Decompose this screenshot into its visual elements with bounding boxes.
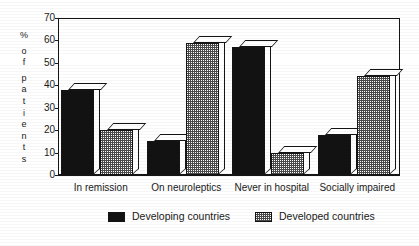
bar-top-face	[68, 83, 107, 90]
bar-side-face	[264, 41, 271, 175]
y-axis-tick-mark	[55, 175, 59, 176]
y-axis-label-char: t	[14, 142, 34, 154]
y-axis-label-char: e	[14, 119, 34, 131]
bar-front-face	[100, 130, 133, 175]
bar-top-face	[364, 69, 403, 76]
y-axis-tick-mark	[55, 130, 59, 131]
y-axis-tick-mark	[55, 18, 59, 19]
y-axis-tick-mark	[55, 108, 59, 109]
y-axis-tick-mark	[55, 63, 59, 64]
y-axis-label-char: f	[14, 57, 34, 69]
x-axis-category-label: On neuroleptics	[144, 182, 230, 194]
bar	[318, 128, 351, 175]
bar	[61, 83, 94, 175]
bar-top-face	[193, 36, 232, 43]
y-axis-tick-label: 30	[35, 103, 55, 113]
bar-side-face	[93, 83, 100, 175]
legend-item: Developing countries	[108, 210, 230, 223]
chart-legend: Developing countriesDeveloped countries	[0, 210, 419, 234]
bar	[232, 40, 265, 175]
bar	[357, 69, 390, 175]
bar-front-face	[147, 141, 180, 175]
bar	[186, 36, 219, 175]
y-axis-label-char: a	[14, 84, 34, 96]
y-axis-tick-label: 60	[35, 35, 55, 45]
y-axis-tick-label: 20	[35, 125, 55, 135]
x-axis-category-label: Socially impaired	[315, 182, 401, 194]
bar-front-face	[357, 76, 390, 175]
legend-label: Developing countries	[132, 210, 230, 223]
y-axis-tick-label: 0	[35, 170, 55, 180]
bar-side-face	[350, 128, 357, 175]
y-axis-label: %ofpatients	[14, 30, 34, 166]
y-axis-tick-label: 10	[35, 148, 55, 158]
legend-item: Developed countries	[255, 210, 375, 223]
y-axis-label-char: t	[14, 96, 34, 108]
y-axis-label-char: p	[14, 73, 34, 85]
legend-swatch	[255, 212, 272, 222]
y-axis-tick-label: 50	[35, 58, 55, 68]
bar-front-face	[232, 47, 265, 175]
bar-top-face	[239, 40, 278, 47]
y-axis-tick-label: 40	[35, 80, 55, 90]
y-axis-tick-mark	[55, 40, 59, 41]
bar-front-face	[61, 90, 94, 175]
y-axis-tick-mark	[55, 85, 59, 86]
y-axis-label-char: s	[14, 154, 34, 166]
bar-front-face	[186, 43, 219, 175]
y-axis-label-char: n	[14, 131, 34, 143]
bar-side-face	[389, 70, 396, 175]
y-axis-label-char: %	[14, 30, 34, 42]
bar-side-face	[132, 124, 139, 175]
bar-side-face	[218, 36, 225, 175]
bar	[147, 134, 180, 175]
bar-top-face	[107, 123, 146, 130]
y-axis-tick-label: 70	[35, 13, 55, 23]
bar-side-face	[179, 135, 186, 175]
bar-chart: %ofpatients 010203040506070 In remission…	[0, 0, 419, 246]
y-axis-label-char: o	[14, 46, 34, 58]
y-axis-tick-mark	[55, 153, 59, 154]
legend-label: Developed countries	[279, 210, 375, 223]
y-axis-label-char: i	[14, 108, 34, 120]
bar-front-face	[318, 135, 351, 175]
x-axis-category-label: In remission	[58, 182, 144, 194]
bar	[271, 146, 304, 175]
bar	[100, 123, 133, 175]
x-axis-category-label: Never in hospital	[229, 182, 315, 194]
bar-front-face	[271, 153, 304, 175]
bar-top-face	[278, 146, 317, 153]
legend-swatch	[108, 212, 125, 222]
